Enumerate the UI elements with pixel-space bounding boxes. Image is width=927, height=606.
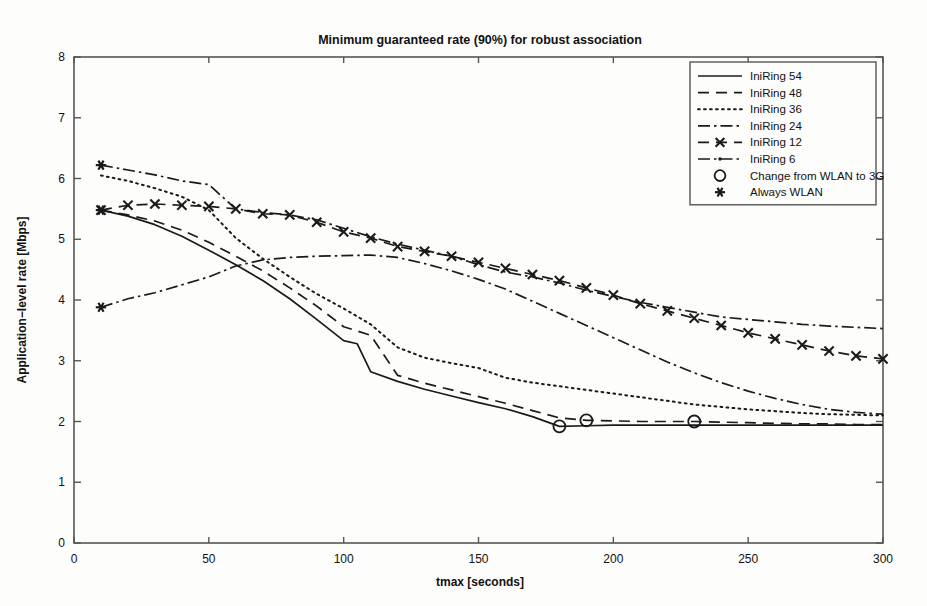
chart-title: Minimum guaranteed rate (90%) for robust… xyxy=(318,33,642,47)
legend-label: IniRing 6 xyxy=(750,153,795,165)
y-tick-label: 0 xyxy=(58,536,65,550)
y-axis-label: Application−level rate [Mbps] xyxy=(15,216,29,383)
y-tick-label: 2 xyxy=(58,415,65,429)
chart-page: 050100150200250300 012345678 Minimum gua… xyxy=(0,0,927,606)
y-tick-label: 3 xyxy=(58,354,65,368)
legend-label: IniRing 48 xyxy=(750,87,802,99)
legend[interactable]: IniRing 54IniRing 48IniRing 36IniRing 24… xyxy=(690,62,884,205)
x-tick-label: 50 xyxy=(202,552,216,566)
legend-label: IniRing 24 xyxy=(750,120,802,132)
x-tick-label: 0 xyxy=(71,552,78,566)
x-tick-label: 300 xyxy=(873,552,893,566)
legend-label: IniRing 12 xyxy=(750,136,802,148)
y-tick-label: 4 xyxy=(58,293,65,307)
y-tick-label: 1 xyxy=(58,475,65,489)
x-axis-label: tmax [seconds] xyxy=(436,575,524,589)
y-tick-label: 7 xyxy=(58,111,65,125)
x-tick-label: 150 xyxy=(468,552,488,566)
y-tick-label: 5 xyxy=(58,232,65,246)
legend-dot xyxy=(718,157,721,160)
y-tick-label: 8 xyxy=(58,50,65,64)
x-tick-label: 250 xyxy=(738,552,758,566)
legend-label: IniRing 36 xyxy=(750,103,802,115)
legend-label: Always WLAN xyxy=(750,186,823,198)
x-tick-label: 200 xyxy=(603,552,623,566)
y-tick-label: 6 xyxy=(58,172,65,186)
x-tick-label: 100 xyxy=(334,552,354,566)
legend-label: Change from WLAN to 3G xyxy=(750,170,884,182)
legend-label: IniRing 54 xyxy=(750,70,802,82)
legend-box xyxy=(690,62,876,205)
line-chart: 050100150200250300 012345678 Minimum gua… xyxy=(0,0,927,606)
